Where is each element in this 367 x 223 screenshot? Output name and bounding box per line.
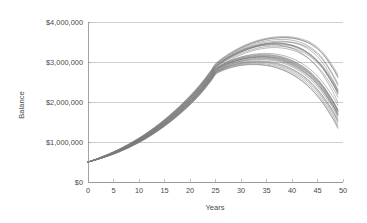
chart-container: 05101520253035404550 $0$1,000,000$2,000,… — [0, 0, 367, 223]
x-tick-label: 5 — [111, 186, 115, 195]
y-tick-label: $0 — [75, 178, 83, 187]
chart-background — [0, 0, 367, 223]
x-axis-label: Years — [205, 203, 224, 212]
y-tick-label: $2,000,000 — [46, 98, 83, 107]
x-tick-label: 20 — [186, 186, 194, 195]
x-tick-label: 30 — [237, 186, 245, 195]
x-tick-label: 50 — [339, 186, 347, 195]
x-tick-label: 0 — [86, 186, 90, 195]
y-axis-label: Balance — [17, 91, 26, 118]
x-tick-label: 45 — [313, 186, 321, 195]
x-tick-label: 10 — [135, 186, 143, 195]
x-tick-label: 25 — [211, 186, 219, 195]
x-tick-label: 35 — [262, 186, 270, 195]
balance-line-chart: 05101520253035404550 $0$1,000,000$2,000,… — [0, 0, 367, 223]
x-tick-label: 40 — [288, 186, 296, 195]
x-tick-label: 15 — [160, 186, 168, 195]
y-tick-label: $1,000,000 — [46, 138, 83, 147]
y-tick-label: $4,000,000 — [46, 18, 83, 27]
y-tick-label: $3,000,000 — [46, 58, 83, 67]
